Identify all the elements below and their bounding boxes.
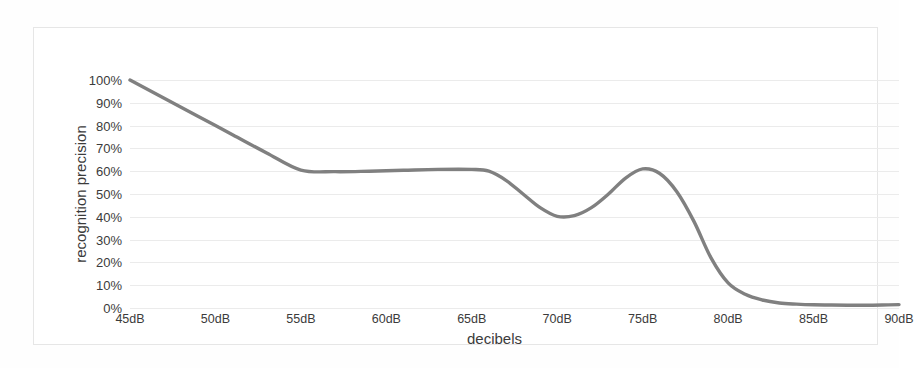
y-axis-tick-label: 100% — [70, 73, 122, 88]
x-axis-tick-label: 60dB — [372, 312, 401, 326]
x-axis-tick-label: 80dB — [714, 312, 743, 326]
x-axis-tick-label: 90dB — [884, 312, 913, 326]
x-axis-title-text: decibels — [467, 330, 522, 347]
x-axis-tick-label: 55dB — [286, 312, 315, 326]
x-axis-tick-label: 70dB — [543, 312, 572, 326]
x-axis-tick-label: 65dB — [457, 312, 486, 326]
x-axis-tick-label: 75dB — [628, 312, 657, 326]
plot-area — [130, 80, 899, 308]
gridline — [130, 308, 899, 309]
x-axis-tick-label: 85dB — [799, 312, 828, 326]
chart-frame: 100%90%80%70%60%50%40%30%20%10%0% 45dB50… — [33, 27, 878, 345]
curve-path — [130, 80, 899, 305]
y-axis-tick-label: 0% — [70, 301, 122, 316]
y-axis-tick-label: 90% — [70, 95, 122, 110]
x-axis-tick-label: 45dB — [115, 312, 144, 326]
y-axis-tick-label: 10% — [70, 278, 122, 293]
x-axis-tick-label: 50dB — [201, 312, 230, 326]
line-series-recognition-precision — [130, 80, 899, 308]
x-axis-tick-labels: 45dB50dB55dB60dB65dB70dB75dB80dB85dB90dB — [130, 312, 899, 332]
x-axis-title: decibels — [34, 330, 918, 347]
y-axis-title: recognition precision — [72, 125, 89, 263]
